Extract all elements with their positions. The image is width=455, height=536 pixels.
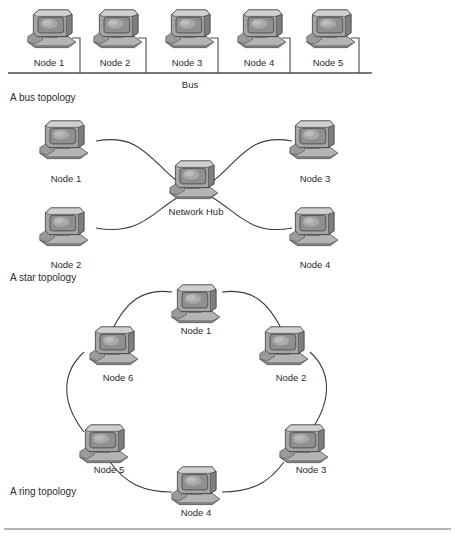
bus-node-icon-1	[28, 10, 76, 48]
bus-node-label-1: Node 1	[34, 57, 65, 68]
network-hub-icon	[170, 161, 218, 199]
network-hub-label: Network Hub	[169, 206, 224, 217]
ring-node-label-6: Node 6	[103, 372, 134, 383]
star-node-icon-3	[290, 121, 338, 159]
figure-page: Node 1 Node 2 Node 3 Node 4 Node 5 Bus A…	[0, 0, 455, 536]
star-node-label-2: Node 2	[51, 259, 82, 270]
bus-node-icon-5	[307, 10, 355, 48]
ring-node-icon-2	[260, 327, 308, 365]
bus-node-icon-2	[94, 10, 142, 48]
ring-node-icon-4	[172, 467, 220, 505]
network-topology-diagram: Node 1 Node 2 Node 3 Node 4 Node 5 Bus A…	[0, 0, 455, 536]
ring-node-icon-3	[280, 425, 328, 463]
star-link-node1-hub	[96, 140, 178, 182]
bus-topology-section: Node 1 Node 2 Node 3 Node 4 Node 5 Bus A…	[8, 10, 372, 103]
star-topology-caption: A star topology	[10, 272, 76, 283]
ring-topology-caption: A ring topology	[10, 486, 76, 497]
ring-node-label-1: Node 1	[181, 325, 212, 336]
star-node-icon-2	[40, 208, 88, 246]
star-node-label-3: Node 3	[300, 173, 331, 184]
ring-node-label-5: Node 5	[94, 464, 125, 475]
bus-node-label-5: Node 5	[313, 57, 344, 68]
star-link-node3-hub	[212, 140, 292, 182]
ring-node-label-4: Node 4	[181, 507, 212, 518]
ring-link-node2-node3	[310, 352, 327, 432]
ring-topology-section: Node 1 Node 2 Node 3 Node 4 Node 5 Node …	[10, 285, 328, 518]
star-node-icon-1	[40, 121, 88, 159]
ring-link-node3-node4	[222, 462, 284, 492]
ring-link-node5-node6	[67, 352, 84, 432]
star-link-node2-hub	[96, 196, 180, 230]
bus-node-label-4: Node 4	[244, 57, 275, 68]
star-node-label-1: Node 1	[51, 173, 82, 184]
star-node-icon-4	[290, 208, 338, 246]
bus-label: Bus	[182, 79, 199, 90]
ring-link-node1-node2	[222, 291, 282, 330]
ring-node-icon-6	[90, 327, 138, 365]
bus-node-icon-4	[238, 10, 286, 48]
ring-node-icon-5	[80, 425, 128, 463]
bus-node-label-2: Node 2	[100, 57, 131, 68]
bus-node-label-3: Node 3	[172, 57, 203, 68]
ring-node-icon-1	[172, 285, 220, 323]
bus-topology-caption: A bus topology	[10, 92, 76, 103]
ring-node-label-2: Node 2	[276, 372, 307, 383]
star-node-label-4: Node 4	[300, 259, 331, 270]
ring-link-node6-node1	[112, 291, 172, 330]
bus-node-icon-3	[166, 10, 214, 48]
ring-node-label-3: Node 3	[296, 464, 327, 475]
star-topology-section: Network Hub Node 1 Node 2 Node 3 Node 4 …	[10, 121, 338, 283]
